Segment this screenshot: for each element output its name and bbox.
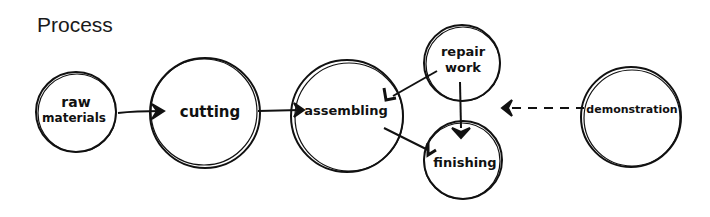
label-assembling: assembling [304,103,387,118]
label-work: work [445,60,481,75]
arrowhead-dashed [502,100,512,116]
arrowhead-from-repair [384,88,396,100]
process-diagram: raw materials cutting assembling repair … [0,0,710,217]
label-demonstration: demonstration [586,103,677,116]
node-demonstration [581,67,681,167]
label-repair: repair [441,44,486,59]
label-materials: materials [42,111,106,125]
arrowhead-finishing-from-assembling [428,143,436,155]
label-raw: raw [61,94,90,110]
arrowhead-finishing-from-repair [452,128,470,138]
edge-cutting-to-assembling [258,110,300,111]
edge-assembling-to-finishing [384,128,428,150]
edge-repair-to-finishing [460,82,461,128]
label-cutting: cutting [180,103,240,121]
label-finishing: finishing [433,155,496,170]
